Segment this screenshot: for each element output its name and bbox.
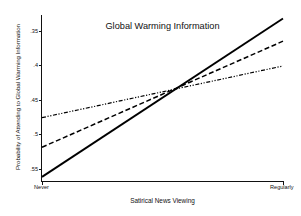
series-line-dashed: [42, 41, 283, 147]
series-lines: [42, 18, 283, 176]
series-line-dash-dot-dot: [42, 66, 283, 118]
plot-area: [0, 0, 301, 216]
series-line-solid: [42, 18, 283, 176]
chart-figure: Probability of Attending to Global Warmi…: [0, 0, 301, 216]
